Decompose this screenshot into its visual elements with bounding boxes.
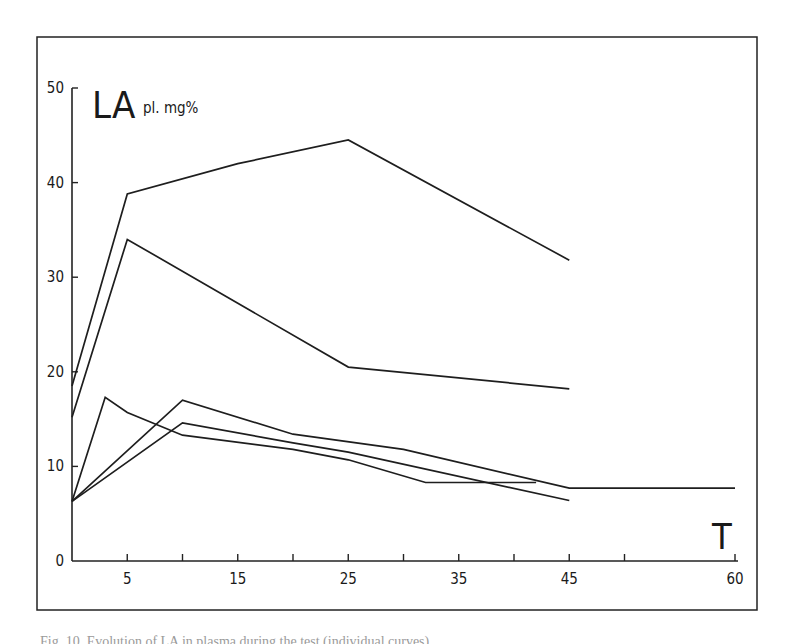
x-tick-label: 15 — [229, 570, 246, 588]
figure-caption: Fig. 10. Evolution of LA in plasma durin… — [40, 632, 760, 644]
x-tick-label: 45 — [561, 570, 578, 588]
y-axis-label-unit: pl. mg% — [143, 99, 199, 117]
series-line-curve-5 — [72, 397, 536, 501]
series-group — [72, 140, 735, 501]
figure: 0102030405051525354560 LA pl. mg% T Fig.… — [0, 0, 792, 644]
x-tick-label: 25 — [340, 570, 357, 588]
y-tick-label: 40 — [47, 174, 64, 192]
x-tick-label: 35 — [450, 570, 467, 588]
x-axis-label: T — [711, 516, 732, 557]
y-axis-label-main: LA — [92, 83, 136, 127]
series-line-curve-4 — [72, 423, 569, 502]
x-tick-label: 5 — [123, 570, 132, 588]
figure-frame — [37, 37, 757, 610]
series-line-curve-1 — [72, 140, 569, 386]
series-line-curve-3 — [72, 400, 735, 501]
axis-labels: LA pl. mg% T — [92, 83, 732, 557]
axes: 0102030405051525354560 — [47, 79, 744, 588]
line-chart: 0102030405051525354560 LA pl. mg% T — [0, 0, 792, 644]
y-tick-label: 20 — [47, 363, 64, 381]
series-line-curve-2 — [72, 239, 569, 417]
y-tick-label: 50 — [47, 79, 64, 97]
y-tick-label: 0 — [55, 552, 64, 570]
x-tick-label: 60 — [726, 570, 743, 588]
y-tick-label: 10 — [47, 457, 64, 475]
y-tick-label: 30 — [47, 268, 64, 286]
